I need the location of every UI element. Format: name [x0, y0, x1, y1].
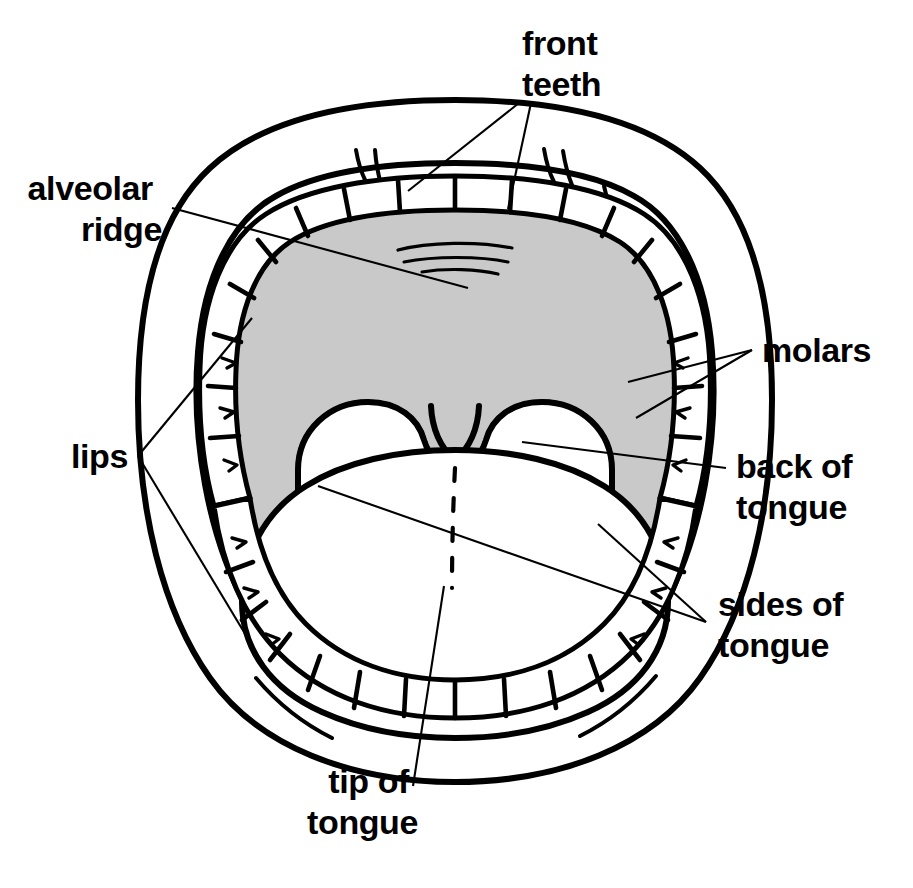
- label-lips: lips: [71, 437, 128, 475]
- label-front-teeth: front teeth: [522, 24, 606, 103]
- label-front-teeth-line-1: front: [522, 24, 597, 62]
- lower-tooth-divider: [504, 679, 506, 716]
- upper-tooth-divider: [671, 436, 700, 438]
- label-sides-of-tongue-line-2: tongue: [718, 626, 829, 664]
- upper-tooth-divider: [208, 386, 236, 388]
- mouth-anatomy-diagram: front teeth alveolar ridge molars lips b…: [0, 0, 913, 888]
- label-tip-of-tongue: tip of tongue: [307, 762, 418, 841]
- label-alveolar-ridge-line-1: alveolar: [28, 169, 153, 207]
- label-back-of-tongue-line-2: tongue: [736, 488, 847, 526]
- label-tip-of-tongue-line-2: tongue: [307, 803, 418, 841]
- upper-tooth-divider: [398, 180, 400, 212]
- upper-tooth-divider: [210, 436, 239, 438]
- label-sides-of-tongue: sides of tongue: [718, 585, 852, 664]
- label-lips-line-1: lips: [71, 437, 128, 475]
- label-alveolar-ridge-line-2: ridge: [81, 210, 162, 248]
- label-sides-of-tongue-line-1: sides of: [718, 585, 844, 623]
- label-molars-line-1: molars: [762, 331, 871, 369]
- label-front-teeth-line-2: teeth: [522, 65, 601, 103]
- label-molars: molars: [762, 331, 871, 369]
- lower-tooth-divider: [404, 679, 406, 716]
- label-alveolar-ridge: alveolar ridge: [28, 169, 162, 248]
- mouth-illustration: front teeth alveolar ridge molars lips b…: [0, 0, 913, 888]
- label-back-of-tongue-line-1: back of: [736, 447, 853, 485]
- label-tip-of-tongue-line-1: tip of: [328, 762, 410, 800]
